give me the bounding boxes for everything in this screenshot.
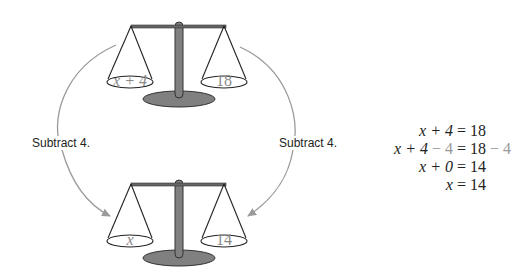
equation-lhs-3: x + 0 = (366, 158, 466, 176)
top-right-pan-label: 18 (216, 72, 232, 89)
right-arrow (240, 47, 295, 216)
scale-post (175, 22, 183, 98)
scale-beam (131, 183, 226, 186)
equation-rhs-4: 14 (470, 176, 486, 194)
left-arrow (57, 45, 116, 216)
bottom-balance-scale (107, 180, 247, 266)
top-balance-scale (107, 22, 247, 107)
scale-post (175, 180, 183, 258)
top-left-pan-label: x + 4 (112, 72, 147, 89)
equation-lhs-4: x = (366, 176, 466, 194)
bottom-left-pan-label: x (125, 231, 133, 248)
left-arrow-label: Subtract 4. (31, 136, 91, 150)
bottom-right-pan-label: 14 (216, 231, 232, 248)
scale-beam (131, 25, 226, 28)
equation-lhs-2: x + 4 − 4 = (366, 140, 466, 158)
equation-rhs-3: 14 (470, 158, 486, 176)
right-arrow-label: Subtract 4. (278, 136, 338, 150)
equation-rhs-2: 18 − 4 (470, 140, 511, 158)
equation-rhs-1: 18 (470, 122, 486, 140)
equation-lhs-1: x + 4 = (366, 122, 466, 140)
